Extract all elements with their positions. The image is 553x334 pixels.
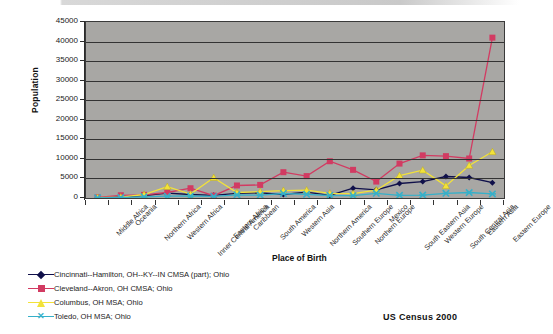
y-tick-label: 35000	[34, 56, 78, 64]
legend-marker-diamond-icon	[28, 269, 54, 280]
y-tick-label: 30000	[34, 76, 78, 84]
y-tick	[80, 197, 84, 198]
gridline	[86, 159, 504, 160]
line-chart: Population 45000400003500030000250002000…	[0, 0, 519, 215]
gridline	[86, 81, 504, 82]
y-tick-label: 45000	[34, 17, 78, 25]
x-axis-tick-labels: Middle AfricaOceaniaNorthern AfricaWeste…	[0, 203, 519, 261]
gridline	[86, 42, 504, 43]
y-tick	[80, 138, 84, 139]
legend-label: Cleveland--Akron, OH CMSA; Ohio	[54, 284, 173, 293]
series-2	[95, 35, 496, 198]
legend-item[interactable]: Cleveland--Akron, OH CMSA; Ohio	[28, 282, 328, 294]
legend-marker-triangle-icon	[28, 297, 54, 308]
gridline	[86, 100, 504, 101]
y-tick	[80, 21, 84, 22]
y-tick	[80, 177, 84, 178]
legend-marker-x-icon: ✕	[28, 311, 54, 322]
y-tick	[80, 158, 84, 159]
series-layer	[86, 22, 504, 198]
y-axis-tick-labels: 4500040000350003000025000200001500010000…	[30, 0, 78, 215]
chart-legend: Cincinnati--Hamilton, OH--KY--IN CMSA (p…	[28, 268, 328, 324]
legend-label: Columbus, OH MSA; Ohio	[54, 298, 143, 307]
gridline	[86, 178, 504, 179]
y-tick	[80, 119, 84, 120]
legend-marker-square-icon	[28, 283, 54, 294]
y-tick-label: 15000	[34, 134, 78, 142]
x-axis-title: Place of Birth	[272, 253, 327, 263]
gridline	[86, 120, 504, 121]
y-tick	[80, 99, 84, 100]
y-tick-label: 25000	[34, 95, 78, 103]
y-tick-label: 40000	[34, 37, 78, 45]
y-tick-label: 20000	[34, 115, 78, 123]
y-tick-label: 5000	[34, 173, 78, 181]
y-tick	[80, 60, 84, 61]
y-tick	[80, 80, 84, 81]
legend-label: Toledo, OH MSA; Ohio	[54, 312, 131, 321]
y-tick-label: 0	[34, 193, 78, 201]
y-tick-label: 10000	[34, 154, 78, 162]
legend-item[interactable]: Columbus, OH MSA; Ohio	[28, 296, 328, 308]
source-note: US Census 2000	[383, 312, 457, 322]
legend-item[interactable]: ✕Toledo, OH MSA; Ohio	[28, 310, 328, 322]
legend-label: Cincinnati--Hamilton, OH--KY--IN CMSA (p…	[54, 270, 229, 279]
y-tick	[80, 41, 84, 42]
gridline	[86, 139, 504, 140]
plot-area	[85, 21, 505, 199]
legend-item[interactable]: Cincinnati--Hamilton, OH--KY--IN CMSA (p…	[28, 268, 328, 280]
gridline	[86, 61, 504, 62]
